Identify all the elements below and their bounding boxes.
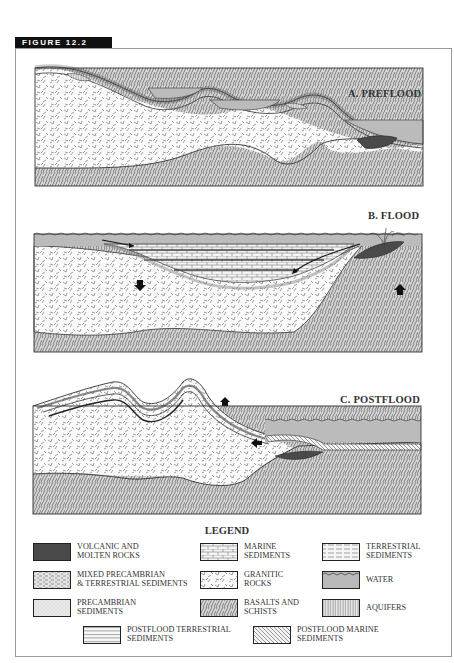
legend-item-postflood-marine: Postflood MarineSediments	[253, 626, 379, 644]
legend-item-volcanic: Volcanic andMolten Rocks	[33, 543, 140, 561]
swatch-precambrian-icon	[33, 599, 71, 617]
swatch-mixed-icon	[33, 571, 71, 589]
legend-title: LEGEND	[0, 525, 454, 536]
swatch-granitic-icon	[200, 571, 238, 589]
swatch-postflood-marine-icon	[253, 626, 291, 644]
swatch-basalts-icon	[200, 599, 238, 617]
legend-item-granitic: GraniticRocks	[200, 571, 283, 589]
swatch-aquifers-icon	[322, 599, 360, 617]
swatch-terrestrial-icon	[322, 543, 360, 561]
legend-item-mixed: Mixed Precambrian& Terrestrial Sediments	[33, 571, 188, 589]
uplift-arrow-icon	[220, 397, 230, 406]
swatch-marine-icon	[200, 543, 238, 561]
panel-flood-diagram	[34, 232, 424, 354]
panel-postflood-diagram	[33, 378, 423, 518]
swatch-volcanic-icon	[33, 543, 71, 561]
swatch-postflood-terrestrial-icon	[83, 626, 121, 644]
swatch-water-icon	[322, 571, 360, 589]
legend-item-precambrian: PrecambrianSediments	[33, 599, 136, 617]
legend-item-terrestrial: TerrestrialSediments	[322, 543, 421, 561]
panel-label-preflood: A. PREFLOOD	[348, 88, 421, 99]
panel-preflood-diagram	[35, 60, 425, 188]
legend-item-water: Water	[322, 571, 393, 589]
legend-item-marine: MarineSediments	[200, 543, 290, 561]
legend-item-basalts: Basalts andSchists	[200, 599, 299, 617]
legend-item-postflood-terrestrial: Postflood TerrestrialSediments	[83, 626, 231, 644]
legend-item-aquifers: Aquifers	[322, 599, 406, 617]
panel-label-flood: B. FLOOD	[368, 210, 419, 221]
